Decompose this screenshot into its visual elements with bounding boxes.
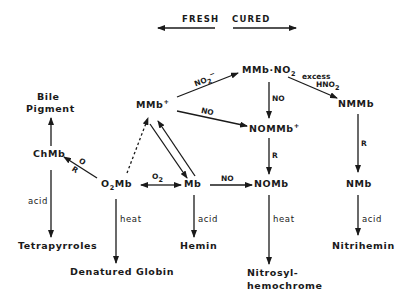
node-mmb-no2: MMb·NO2 — [242, 64, 296, 78]
node-nomb: NOMb — [254, 178, 289, 190]
edge-label-r-nommb: R — [272, 152, 278, 160]
node-tetrapyrroles: Tetrapyrroles — [18, 240, 97, 252]
edge-label-heat-o2mb: heat — [120, 214, 142, 225]
node-denatured-globin: Denatured Globin — [70, 266, 174, 278]
edge-label-acid-mb: acid — [198, 214, 218, 225]
edge-label-no-mmbno2: NO — [272, 95, 285, 103]
cured-label: CURED — [232, 14, 271, 25]
edge-label-o2: O2 — [152, 173, 163, 183]
node-mmb-plus: MMb+ — [136, 98, 170, 111]
node-mb: Mb — [184, 178, 201, 190]
edge-label-no-mb: NO — [221, 175, 234, 183]
node-bile-pigment-line2: Pigment — [26, 103, 75, 115]
node-o2mb: O2Mb — [101, 178, 132, 192]
edge-label-acid-nmb: acid — [362, 214, 382, 225]
node-hemin: Hemin — [180, 240, 217, 252]
edge-label-hno2: HNO2 — [316, 81, 339, 91]
fresh-label: FRESH — [182, 14, 219, 25]
node-nommb-plus: NOMMb+ — [249, 122, 300, 135]
node-nmb: NMb — [346, 178, 372, 190]
edge-label-heat-nomb: heat — [273, 214, 295, 225]
edge-label-no-mmb: NO — [200, 107, 214, 117]
node-nitrosyl: Nitrosyl- — [247, 267, 298, 279]
edge-label-r-nmmb: R — [361, 140, 367, 148]
node-nmmb: NMMb — [338, 98, 374, 110]
node-nitrihemin: Nitrihemin — [332, 240, 395, 252]
edge-label-acid-chmb: acid — [28, 196, 48, 207]
node-bile-pigment-line1: Bile — [37, 91, 60, 103]
node-chmb: ChMb — [33, 148, 65, 160]
node-hemochrome: hemochrome — [247, 280, 323, 292]
